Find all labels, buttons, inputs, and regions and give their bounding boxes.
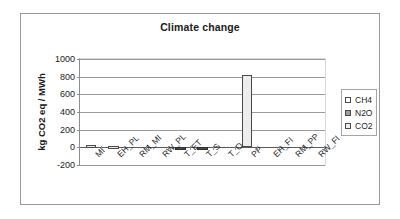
y-axis-tick-label: 600 [60,89,75,99]
category-tick [302,146,303,150]
category-tick [124,146,125,150]
bar-CO2-MI [86,145,97,148]
category-tick [79,146,80,150]
gridline-200 [80,130,325,131]
legend-item-N2O: N2O [345,106,372,119]
gridline--200 [80,165,325,166]
y-tick-mark-1000 [77,59,80,60]
category-tick [279,146,280,150]
category-tick [257,146,258,150]
legend-label: CO2 [355,121,372,131]
legend-item-CO2: CO2 [345,119,372,132]
gridline-400 [80,112,325,113]
chart-legend: CH4N2OCO2 [341,89,377,136]
y-tick-mark-200 [77,130,80,131]
legend-swatch-icon [345,110,351,116]
gridline-600 [80,94,325,95]
legend-label: CH4 [355,95,372,105]
y-tick-mark-800 [77,77,80,78]
y-axis-tick-label: -200 [57,160,75,170]
legend-label: N2O [355,108,372,118]
gridline-800 [80,77,325,78]
category-tick [190,146,191,150]
category-tick [168,146,169,150]
y-axis-tick-label: 800 [60,72,75,82]
y-axis-title: kg CO2 eq / MWh [35,58,49,166]
y-tick-mark-400 [77,112,80,113]
chart-container: Climate change kg CO2 eq / MWh 100080060… [20,13,380,205]
category-tick [213,146,214,150]
chart-title: Climate change [21,21,379,33]
category-tick [235,146,236,150]
category-tick [324,146,325,150]
category-tick [146,146,147,150]
category-tick [101,146,102,150]
bar-CO2-PP [242,75,253,147]
y-tick-mark--200 [77,165,80,166]
legend-item-CH4: CH4 [345,93,372,106]
y-tick-mark-600 [77,94,80,95]
gridline-1000 [80,59,325,60]
y-axis-tick-label: 200 [60,125,75,135]
y-axis-tick-label: 1000 [55,54,75,64]
y-axis-tick-label: 400 [60,107,75,117]
legend-swatch-icon [345,97,351,103]
legend-swatch-icon [345,123,351,129]
y-axis-tick-label: 0 [70,142,75,152]
